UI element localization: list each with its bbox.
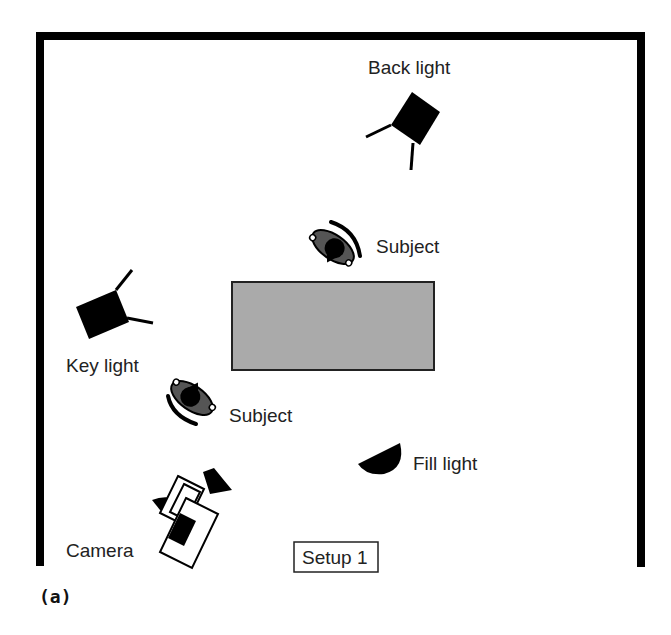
lighting-diagram: Back light Subject Key light Subject Fil… <box>0 0 671 635</box>
camera-icon <box>152 468 232 568</box>
subject-bottom-icon <box>165 371 222 423</box>
fill-light-icon <box>358 443 401 474</box>
subject-top-label: Subject <box>376 236 440 257</box>
figure-caption: (a) <box>39 586 72 607</box>
subject-bottom-label: Subject <box>229 405 293 426</box>
key-light-icon <box>76 270 153 339</box>
table-rect <box>232 282 434 370</box>
key-light-label: Key light <box>66 355 140 376</box>
back-light-icon <box>366 92 440 170</box>
camera-label: Camera <box>66 540 134 561</box>
setup-label: Setup 1 <box>302 547 368 568</box>
subject-top-icon <box>303 223 360 275</box>
back-light-label: Back light <box>368 57 451 78</box>
fill-light-label: Fill light <box>413 453 478 474</box>
